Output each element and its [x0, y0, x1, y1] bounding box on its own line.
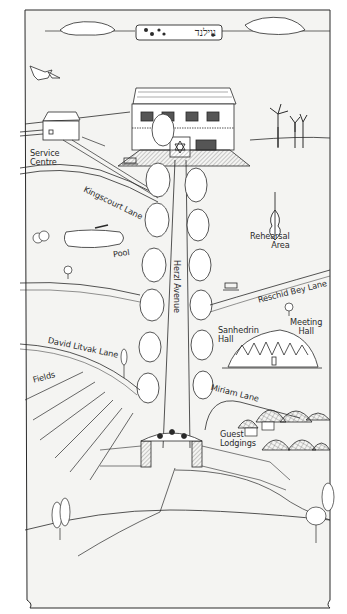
tree-icon: [137, 373, 159, 403]
tree-icon: [191, 330, 213, 360]
tree-icon: [145, 203, 169, 237]
tree-icon: [139, 332, 161, 362]
tree-icon: [187, 209, 209, 241]
label-herzl-avenue: Herzl Avenue: [172, 260, 181, 313]
tree-icon: [140, 289, 164, 321]
tree-icon: [190, 290, 212, 320]
tree-icon: [152, 114, 174, 146]
label-pool: Pool: [112, 248, 130, 259]
label-sanhedrin-hall: Sanhedrin Hall: [218, 326, 259, 343]
tree-icon: [189, 249, 211, 281]
service-centre-building: [43, 112, 80, 140]
tree-icon: [146, 163, 170, 197]
label-meeting-hall: Meeting Hall: [290, 318, 322, 335]
tree-icon: [193, 371, 213, 399]
main-house: [118, 88, 250, 166]
pool: [64, 230, 123, 248]
map-title: נוילנד: [136, 26, 222, 40]
label-guest-lodgings: Guest Lodgings: [220, 430, 256, 447]
label-service-centre: Service Centre: [30, 149, 60, 166]
label-rehearsal-area: Rehearsal Area: [250, 232, 290, 249]
tree-icon: [185, 168, 207, 202]
tree-icon: [142, 248, 166, 282]
